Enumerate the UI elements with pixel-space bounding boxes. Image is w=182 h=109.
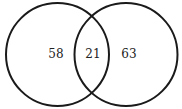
venn-diagram: 58 21 63 — [0, 0, 182, 109]
right-only-count: 63 — [121, 47, 136, 61]
intersection-count: 21 — [85, 47, 100, 61]
left-only-count: 58 — [48, 47, 63, 61]
